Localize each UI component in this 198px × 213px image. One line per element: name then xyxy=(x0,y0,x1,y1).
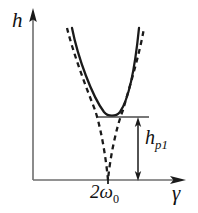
solid-curve xyxy=(72,28,139,116)
y-axis xyxy=(29,8,37,180)
y-axis-label: h xyxy=(12,10,23,31)
hp1-dimension-arrow xyxy=(135,117,141,181)
figure-container: h γ 2ω0 hp1 xyxy=(0,0,198,213)
hp1-label-subscript: p1 xyxy=(155,138,168,152)
x-axis-label-text: γ xyxy=(172,181,180,205)
y-axis-label-text: h xyxy=(12,8,23,32)
x-tick-label-subscript: 0 xyxy=(113,192,119,206)
hp1-label: hp1 xyxy=(145,127,168,152)
x-tick-label-2omega0: 2ω0 xyxy=(90,182,119,205)
x-axis-label: γ xyxy=(172,183,180,204)
x-tick-label-base: 2ω xyxy=(90,181,113,202)
hp1-label-base: h xyxy=(145,126,155,148)
